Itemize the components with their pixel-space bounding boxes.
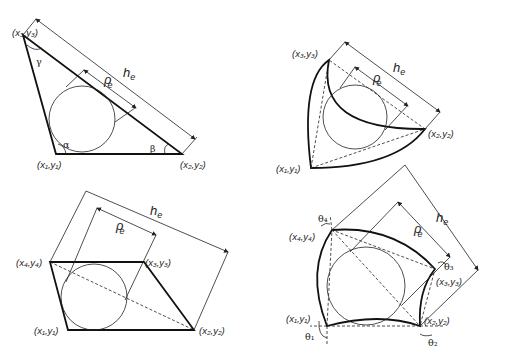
h-e-dimension (36, 19, 195, 139)
diagonal-dashed (50, 262, 194, 330)
rho-e-label: ρe (372, 70, 381, 88)
angle-theta1: θ₁ (305, 331, 315, 342)
vertex-label-1: (x₁,y₁) (34, 325, 58, 336)
vertex-label-3: (x₃,y₃) (12, 27, 38, 38)
curved-quadrilateral-outline (317, 229, 435, 326)
inscribed-circle (327, 247, 405, 325)
angle-theta3: θ₃ (444, 261, 454, 272)
straight-quadrilateral-dashed (327, 230, 435, 326)
h-e-label: he (393, 60, 405, 77)
vertex-label-3: (x₃,y₃) (145, 257, 171, 268)
angle-theta4: θ₄ (318, 213, 328, 224)
vertex-label-2: (x₂,y₂) (180, 159, 206, 170)
finite-element-geometry-figure: (x₃,y₃) (x₁,y₁) (x₂,y₂) γ α β he ρe (x₃,… (0, 0, 505, 364)
rho-e-label: ρe (413, 221, 422, 239)
inscribed-circle (49, 86, 115, 152)
angle-theta2: θ₂ (428, 337, 438, 348)
angle-alpha: α (63, 139, 70, 150)
angle-gamma: γ (36, 56, 42, 67)
vertex-label-2: (x₂,y₂) (428, 128, 454, 139)
panel-curved-quadrilateral: (x₁,y₁) (x₂,y₂) (x₃,y₃) (x₄,y₄) θ₁ θ₂ θ₃… (286, 165, 478, 348)
vertex-label-4: (x₄,y₄) (289, 231, 315, 242)
panel-quadrilateral: (x₄,y₄) (x₃,y₃) (x₁,y₁) (x₂,y₂) he ρe (16, 191, 228, 336)
vertex-label-2: (x₂,y₂) (424, 315, 450, 326)
vertex-label-2: (x₂,y₂) (199, 325, 225, 336)
vertex-label-1: (x₁,y₁) (286, 313, 310, 324)
rho-e-label: ρe (103, 72, 112, 90)
vertex-label-3: (x₃,y₃) (436, 276, 462, 287)
vertex-label-1: (x₁,y₁) (276, 163, 300, 174)
vertex-label-4: (x₄,y₄) (16, 257, 42, 268)
inscribed-circle (61, 264, 127, 330)
panel-triangle: (x₃,y₃) (x₁,y₁) (x₂,y₂) γ α β he ρe (12, 19, 206, 170)
vertex-label-3: (x₃,y₃) (292, 48, 318, 59)
triangle-outline (23, 35, 182, 154)
rho-e-label: ρe (115, 218, 124, 236)
h-e-label: he (123, 65, 135, 82)
h-e-label: he (436, 210, 448, 227)
angle-beta: β (150, 143, 156, 154)
curved-triangle-outline (308, 60, 425, 168)
h-e-label: he (150, 203, 162, 220)
panel-curved-triangle: (x₃,y₃) (x₁,y₁) (x₂,y₂) he ρe (276, 42, 454, 174)
vertex-label-1: (x₁,y₁) (37, 159, 61, 170)
